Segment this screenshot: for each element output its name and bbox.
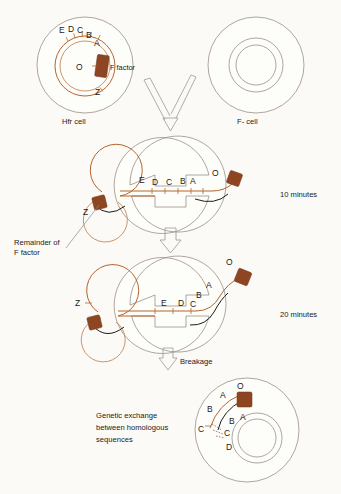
stage3-gene-B: B (196, 290, 202, 300)
stage3-cell-outline (114, 256, 226, 353)
stage4-recipient-gene-B: B (229, 416, 235, 426)
stage2-gene-C: C (166, 177, 172, 187)
stage4-caption-line2: between homologous (96, 423, 168, 432)
stage3-gene-C: C (190, 299, 196, 309)
hfr-origin-label: O (76, 62, 83, 72)
stage4-recipient-gene-A: A (240, 412, 246, 422)
stage2-gene-Z: Z (83, 207, 88, 217)
stage3-gene-A: A (206, 280, 212, 290)
remainder-label-line2: F factor (14, 248, 40, 257)
hfr-cell-caption: Hfr cell (62, 117, 86, 126)
stage2-gene-A: A (190, 176, 196, 186)
stage3-f-factor-remainder-box (87, 315, 103, 331)
hfr-gene-C: C (77, 25, 83, 35)
stage3-origin-label: O (226, 257, 233, 267)
conjugation-figure: E D C B A O Z F factor Hfr cell F- cell (0, 0, 341, 494)
hfr-gene-A: A (94, 38, 100, 48)
stage2-gene-B: B (180, 176, 186, 186)
stage2-gene-E: E (139, 175, 145, 185)
stage4-donor-gene-C: C (198, 424, 204, 434)
stage3-gene-Z: Z (75, 298, 80, 308)
stage2-f-factor-remainder-box (92, 195, 108, 211)
stage4-recipient-gene-C: C (224, 428, 230, 438)
stage2-time-label: 10 minutes (280, 190, 317, 199)
hfr-gene-D: D (68, 24, 74, 34)
stage4-f-factor-box (237, 392, 252, 407)
hfr-gene-Z: Z (95, 87, 100, 97)
breakage-label: Breakage (180, 357, 213, 366)
stage3-gene-E: E (161, 298, 167, 308)
remainder-label-line1: Remainder of (14, 238, 60, 247)
stage4-donor-gene-A: A (220, 390, 226, 400)
stage3-time-label: 20 minutes (280, 310, 317, 319)
recipient-cell-membrane (208, 17, 304, 113)
stage2-gene-D: D (152, 177, 158, 187)
hfr-gene-E: E (59, 25, 65, 35)
hfr-gene-B: B (86, 30, 92, 40)
stage4-recipient-gene-D: D (226, 442, 232, 452)
recipient-cell-caption: F- cell (237, 117, 258, 126)
hfr-f-factor-label: F factor (110, 63, 136, 72)
stage4-donor-gene-B: B (207, 404, 213, 414)
stage4-origin-label: O (237, 381, 244, 391)
stage2-origin-label: O (212, 168, 219, 178)
stage4-caption-line1: Genetic exchange (96, 411, 157, 420)
stage4-caption-line3: sequences (96, 435, 133, 444)
diagram-canvas: E D C B A O Z F factor Hfr cell F- cell (0, 0, 341, 494)
stage3-gene-D: D (178, 298, 184, 308)
stage4-recombinant-cell: O A B C A B C D (195, 378, 299, 482)
